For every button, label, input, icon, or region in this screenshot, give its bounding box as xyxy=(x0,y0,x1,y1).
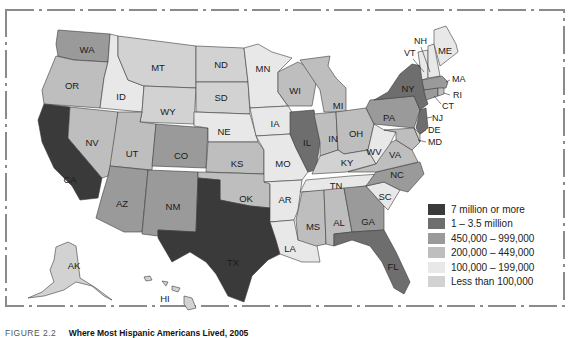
legend-item: 7 million or more xyxy=(428,202,568,217)
state-co xyxy=(152,124,208,168)
label-nh: NH xyxy=(414,36,427,46)
label-ks: KS xyxy=(231,158,244,169)
state-ak xyxy=(28,242,112,300)
label-ct: CT xyxy=(442,101,454,111)
label-ca: CA xyxy=(63,174,77,185)
label-ny: NY xyxy=(401,83,415,94)
label-ak: AK xyxy=(68,260,81,271)
caption-title: Where Most Hispanic Americans Lived, 200… xyxy=(69,328,249,338)
legend-swatch xyxy=(428,204,445,215)
label-ga: GA xyxy=(361,216,375,227)
legend-swatch xyxy=(428,218,445,229)
legend-swatch xyxy=(428,247,445,258)
legend-label: 1 – 3.5 million xyxy=(451,218,513,229)
state-hi xyxy=(144,276,196,310)
label-wy: WY xyxy=(160,106,176,117)
label-ok: OK xyxy=(239,193,253,204)
legend-swatch xyxy=(428,262,445,273)
label-sd: SD xyxy=(214,92,227,103)
label-wi: WI xyxy=(289,85,301,96)
figure-caption: FIGURE 2.2 Where Most Hispanic Americans… xyxy=(5,328,248,338)
label-co: CO xyxy=(174,150,188,161)
label-ut: UT xyxy=(126,148,139,159)
label-la: LA xyxy=(284,243,296,254)
label-mt: MT xyxy=(151,62,165,73)
label-nm: NM xyxy=(166,201,181,212)
legend-label: Less than 100,000 xyxy=(451,276,533,287)
label-tx: TX xyxy=(227,257,240,268)
label-wa: WA xyxy=(80,44,96,55)
legend-swatch xyxy=(428,233,445,244)
map-legend: 7 million or more 1 – 3.5 million 450,00… xyxy=(428,202,568,289)
label-ky: KY xyxy=(341,157,354,168)
legend-label: 100,000 – 199,000 xyxy=(451,262,534,273)
label-vt: VT xyxy=(404,48,416,58)
legend-label: 450,000 – 999,000 xyxy=(451,233,534,244)
label-ri: RI xyxy=(453,90,462,100)
label-ma: MA xyxy=(452,74,466,84)
legend-item: 450,000 – 999,000 xyxy=(428,231,568,246)
label-il: IL xyxy=(303,137,311,148)
label-ms: MS xyxy=(306,221,320,232)
label-me: ME xyxy=(438,45,452,56)
label-sc: SC xyxy=(378,191,391,202)
state-ms xyxy=(296,190,326,246)
state-fl xyxy=(334,230,410,294)
legend-item: Less than 100,000 xyxy=(428,275,568,290)
label-mo: MO xyxy=(275,158,290,169)
label-va: VA xyxy=(389,149,402,160)
label-pa: PA xyxy=(383,112,396,123)
legend-swatch xyxy=(428,276,445,287)
label-ia: IA xyxy=(271,118,281,129)
label-ar: AR xyxy=(278,194,291,205)
label-nd: ND xyxy=(214,59,228,70)
legend-item: 100,000 – 199,000 xyxy=(428,260,568,275)
label-az: AZ xyxy=(116,198,128,209)
label-al: AL xyxy=(333,217,345,228)
label-id: ID xyxy=(116,91,126,102)
label-tn: TN xyxy=(330,180,343,191)
label-nc: NC xyxy=(390,169,404,180)
label-wv: WV xyxy=(366,146,382,157)
legend-item: 1 – 3.5 million xyxy=(428,217,568,232)
legend-item: 200,000 – 449,000 xyxy=(428,246,568,261)
label-de: DE xyxy=(428,125,441,135)
label-mn: MN xyxy=(256,63,271,74)
label-oh: OH xyxy=(349,128,363,139)
caption-number: FIGURE 2.2 xyxy=(5,328,56,338)
legend-label: 200,000 – 449,000 xyxy=(451,247,534,258)
label-nj: NJ xyxy=(432,113,443,123)
label-or: OR xyxy=(65,80,79,91)
label-in: IN xyxy=(328,133,338,144)
label-mi: MI xyxy=(333,100,344,111)
label-fl: FL xyxy=(387,261,398,272)
label-nv: NV xyxy=(85,137,99,148)
legend-label: 7 million or more xyxy=(451,204,525,215)
label-md: MD xyxy=(428,137,442,147)
label-hi: HI xyxy=(160,293,170,304)
label-ne: NE xyxy=(217,126,230,137)
state-ri xyxy=(438,88,444,96)
